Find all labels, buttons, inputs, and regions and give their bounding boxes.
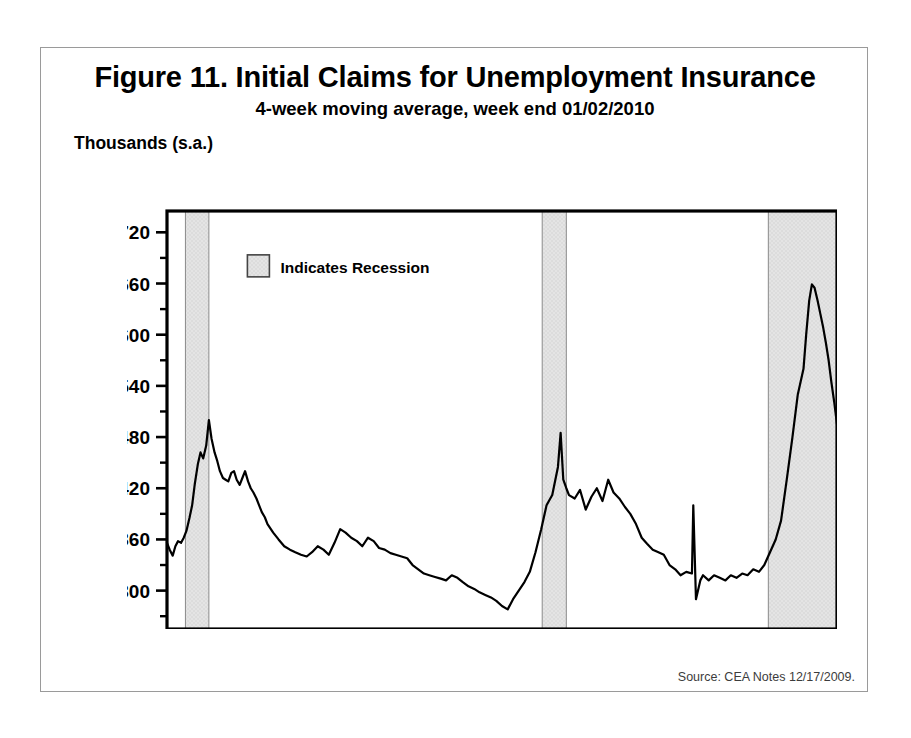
claims-line bbox=[167, 284, 837, 609]
legend-swatch bbox=[247, 255, 269, 277]
recession-band bbox=[768, 211, 837, 629]
figure-frame: Figure 11. Initial Claims for Unemployme… bbox=[40, 47, 868, 692]
y-axis-label: Thousands (s.a.) bbox=[74, 133, 213, 154]
y-axis-tick-label: 420 bbox=[127, 478, 150, 499]
figure-subtitle: 4-week moving average, week end 01/02/20… bbox=[41, 98, 869, 120]
y-axis-tick-label: 480 bbox=[127, 427, 150, 448]
legend-label: Indicates Recession bbox=[280, 259, 429, 276]
recession-band bbox=[542, 211, 566, 629]
y-axis-tick-label: 300 bbox=[127, 581, 150, 602]
y-axis-ticks: 300360420480540600660720 bbox=[127, 222, 167, 616]
recession-band bbox=[185, 211, 208, 629]
source-note: Source: CEA Notes 12/17/2009. bbox=[678, 670, 855, 684]
y-axis-tick-label: 540 bbox=[127, 376, 150, 397]
line-chart-svg: 300360420480540600660720Jan 90Jan 94Jan … bbox=[127, 164, 837, 629]
figure-root: Figure 11. Initial Claims for Unemployme… bbox=[0, 0, 911, 738]
figure-title: Figure 11. Initial Claims for Unemployme… bbox=[41, 61, 869, 94]
y-axis-tick-label: 600 bbox=[127, 325, 150, 346]
y-axis-tick-label: 720 bbox=[127, 222, 150, 243]
plot-area: 300360420480540600660720Jan 90Jan 94Jan … bbox=[127, 164, 837, 629]
y-axis-tick-label: 660 bbox=[127, 274, 150, 295]
y-axis-tick-label: 360 bbox=[127, 529, 150, 550]
legend: Indicates Recession bbox=[247, 255, 429, 277]
